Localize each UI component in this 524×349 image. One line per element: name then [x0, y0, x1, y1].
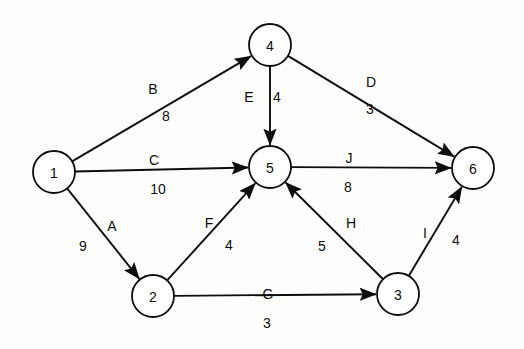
node-3-label: 3	[394, 287, 402, 303]
edge-weight-d: 3	[366, 101, 374, 117]
edge-f-arrow	[167, 183, 255, 280]
edge-weight-e: 4	[273, 89, 281, 105]
edge-label-j: J	[346, 150, 353, 166]
edge-weight-j: 8	[344, 179, 352, 195]
edge-g-arrow	[174, 294, 376, 296]
edge-j-arrow	[291, 167, 451, 168]
edge-label-h: H	[346, 215, 356, 231]
node-2-label: 2	[149, 289, 157, 305]
edge-label-a: A	[107, 218, 117, 234]
network-graph-canvas: A9B8C10D3E4F4G3H5I4J8 123456	[0, 0, 524, 349]
node-4-label: 4	[266, 38, 274, 54]
edge-label-c: C	[149, 152, 159, 168]
edge-label-f: F	[205, 215, 214, 231]
edge-label-e: E	[244, 89, 253, 105]
edge-weight-f: 4	[225, 237, 233, 253]
node-3[interactable]: 3	[377, 273, 419, 315]
node-4[interactable]: 4	[249, 24, 291, 66]
edge-weight-b: 8	[162, 108, 170, 124]
edge-weight-h: 5	[318, 238, 326, 254]
node-1[interactable]: 1	[33, 151, 75, 193]
edge-a-arrow	[67, 188, 139, 278]
node-6-label: 6	[469, 161, 477, 177]
node-6[interactable]: 6	[452, 147, 494, 189]
edge-weight-c: 10	[150, 181, 166, 197]
edge-label-b: B	[148, 81, 157, 97]
edge-label-g: G	[263, 286, 274, 302]
edge-weight-i: 4	[452, 232, 460, 248]
edge-weight-g: 3	[263, 315, 271, 331]
edge-weight-a: 9	[79, 238, 87, 254]
edge-c-arrow	[75, 168, 248, 172]
edge-label-d: D	[366, 74, 376, 90]
network-diagram: A9B8C10D3E4F4G3H5I4J8 123456	[0, 0, 524, 349]
node-5-label: 5	[266, 160, 274, 176]
edge-label-i: I	[423, 225, 427, 241]
node-1-label: 1	[50, 165, 58, 181]
node-2[interactable]: 2	[132, 275, 174, 317]
edge-h-arrow	[286, 182, 383, 279]
node-5[interactable]: 5	[249, 146, 291, 188]
